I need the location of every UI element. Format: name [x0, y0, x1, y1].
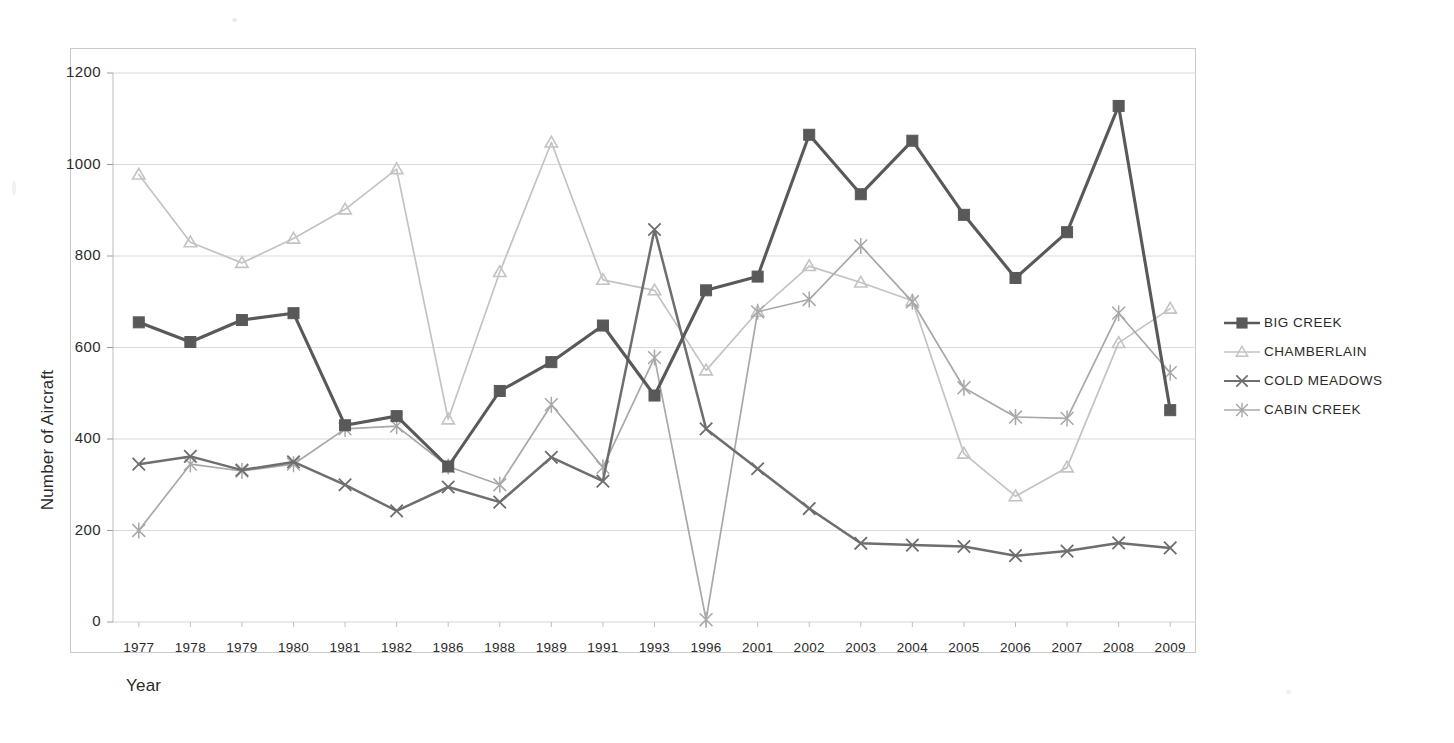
data-point-marker-cross	[339, 479, 351, 491]
x-tick-label: 2009	[1155, 640, 1186, 655]
legend-swatch-square-icon	[1222, 314, 1262, 332]
x-tick-label: 1978	[175, 640, 206, 655]
x-tick-label: 1991	[587, 640, 618, 655]
series-big-creek	[133, 100, 1175, 472]
scan-artifact	[12, 180, 16, 196]
data-point-marker-square	[958, 209, 969, 220]
x-tick-label: 2008	[1103, 640, 1134, 655]
x-tick-label: 2007	[1051, 640, 1082, 655]
series-cabin-creek	[132, 238, 1176, 628]
legend-swatch-triangle-icon	[1222, 343, 1262, 361]
x-tick-label: 1981	[329, 640, 360, 655]
x-tick-label: 1986	[433, 640, 464, 655]
x-tick-label: 2006	[1000, 640, 1031, 655]
data-point-marker-triangle	[1236, 346, 1247, 356]
series-layer	[132, 100, 1176, 627]
y-tick-label: 0	[41, 612, 101, 629]
data-point-marker-star	[648, 350, 661, 366]
legend-item-label: BIG CREEK	[1264, 315, 1342, 330]
data-point-marker-square	[494, 385, 505, 396]
legend-item-label: CHAMBERLAIN	[1264, 344, 1367, 359]
x-axis-title: Year	[126, 676, 161, 696]
data-point-marker-square	[236, 315, 247, 326]
legend-item-cold-meadows[interactable]: COLD MEADOWS	[1222, 366, 1442, 395]
data-point-marker-square	[855, 189, 866, 200]
data-point-marker-square	[391, 411, 402, 422]
legend-swatch-star-icon	[1222, 401, 1262, 419]
data-point-marker-square	[804, 129, 815, 140]
axis-lines	[107, 73, 1170, 627]
x-tick-label: 2003	[845, 640, 876, 655]
data-point-marker-square	[752, 271, 763, 282]
data-point-marker-square	[1062, 227, 1073, 238]
legend-item-big-creek[interactable]: BIG CREEK	[1222, 308, 1442, 337]
legend-swatch-cross-icon	[1222, 372, 1262, 390]
data-point-marker-square	[1165, 405, 1176, 416]
legend-item-cabin-creek[interactable]: CABIN CREEK	[1222, 395, 1442, 424]
x-tick-label: 1977	[123, 640, 154, 655]
x-tick-label: 2005	[948, 640, 979, 655]
data-point-marker-square	[546, 357, 557, 368]
x-tick-label: 1979	[226, 640, 257, 655]
y-tick-label: 800	[41, 246, 101, 263]
data-point-marker-square	[443, 461, 454, 472]
data-point-marker-cross	[545, 451, 557, 463]
scan-artifact	[1286, 690, 1291, 694]
data-point-marker-square	[340, 420, 351, 431]
data-point-marker-triangle	[133, 168, 145, 179]
legend-item-label: CABIN CREEK	[1264, 402, 1361, 417]
x-tick-label: 1988	[484, 640, 515, 655]
x-tick-label: 2004	[897, 640, 928, 655]
data-point-marker-square	[597, 320, 608, 331]
x-tick-label: 1989	[536, 640, 567, 655]
chart-legend: BIG CREEKCHAMBERLAINCOLD MEADOWSCABIN CR…	[1222, 308, 1442, 424]
y-axis-title: Number of Aircraft	[38, 340, 58, 540]
chart-container: 020040060080010001200 197719781979198019…	[0, 0, 1454, 743]
data-point-marker-square	[133, 317, 144, 328]
data-point-marker-square	[185, 337, 196, 348]
data-point-marker-star	[958, 380, 971, 396]
gridlines	[113, 73, 1196, 622]
data-point-marker-square	[1113, 100, 1124, 111]
legend-item-chamberlain[interactable]: CHAMBERLAIN	[1222, 337, 1442, 366]
scan-artifact	[232, 18, 237, 22]
data-point-marker-cross	[803, 502, 815, 514]
series-line	[139, 246, 1170, 620]
data-point-marker-square	[907, 135, 918, 146]
x-tick-label: 1996	[690, 640, 721, 655]
series-line	[139, 143, 1170, 497]
x-tick-label: 2001	[742, 640, 773, 655]
y-tick-label: 1200	[41, 63, 101, 80]
data-point-marker-cross	[390, 505, 402, 517]
data-point-marker-cross	[751, 463, 763, 475]
y-tick-label: 1000	[41, 155, 101, 172]
data-point-marker-square	[1010, 272, 1021, 283]
x-tick-label: 2002	[794, 640, 825, 655]
data-point-marker-star	[700, 612, 713, 628]
x-tick-label: 1982	[381, 640, 412, 655]
x-tick-label: 1980	[278, 640, 309, 655]
x-tick-label: 1993	[639, 640, 670, 655]
data-point-marker-cross	[494, 496, 506, 508]
data-point-marker-square	[649, 390, 660, 401]
data-point-marker-square	[288, 308, 299, 319]
legend-item-label: COLD MEADOWS	[1264, 373, 1383, 388]
data-point-marker-square	[701, 285, 712, 296]
data-point-marker-square	[1237, 317, 1247, 327]
